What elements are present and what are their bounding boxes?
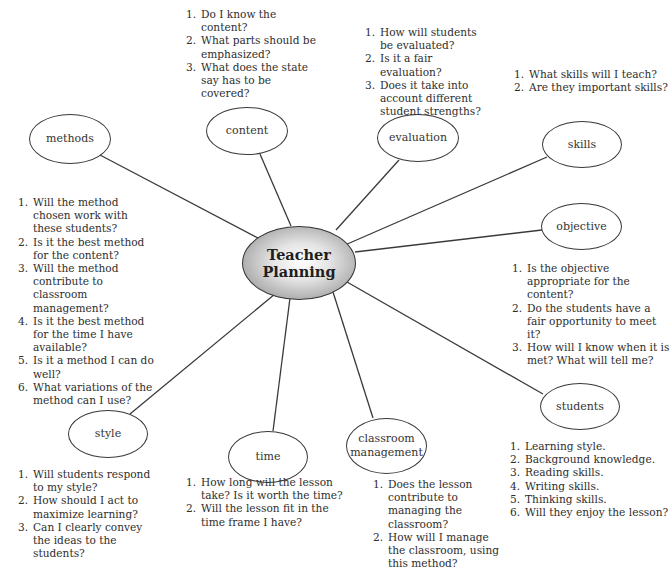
node-students-label: students [556, 400, 604, 414]
list-item: 3.Will the method contribute to classroo… [18, 262, 154, 315]
list-item: 4.Is it the best method for the time I h… [18, 315, 154, 355]
node-classroom-label-line2: management [350, 446, 423, 460]
list-item: 6.Will they enjoy the lesson? [510, 506, 672, 519]
connector-time [273, 298, 290, 431]
time-questions: 1.How long will the lesson take? Is it w… [186, 476, 351, 529]
node-content: content [206, 107, 288, 155]
list-item: 2.Is it a fair evaluation? [365, 52, 493, 78]
center-label-line2: Planning [262, 263, 335, 280]
center-label-line1: Teacher [262, 246, 335, 263]
skills-questions: 1.What skills will I teach? 2.Are they i… [514, 68, 670, 94]
node-style-label: style [95, 427, 121, 441]
list-item: 2.Are they important skills? [514, 81, 670, 94]
list-item: 1.How will students be evaluated? [365, 26, 493, 52]
list-item: 1.What skills will I teach? [514, 68, 670, 81]
node-evaluation-label: evaluation [389, 131, 447, 145]
list-item: 1.How long will the lesson take? Is it w… [186, 476, 351, 502]
node-classroom-management: classroom management [346, 418, 427, 474]
classroom-management-questions: 1.Does the lesson contribute to managing… [373, 478, 501, 570]
node-students: students [540, 383, 620, 430]
node-time-label: time [256, 450, 281, 464]
list-item: 2.Background knowledge. [510, 453, 672, 466]
connector-objective [355, 230, 542, 252]
list-item: 2.Is it the best method for the content? [18, 236, 154, 262]
list-item: 3.Reading skills. [510, 466, 672, 479]
node-evaluation: evaluation [377, 114, 459, 162]
list-item: 1.Will students respond to my style? [18, 468, 154, 494]
list-item: 3.Does it take into account different st… [365, 79, 493, 119]
node-objective-label: objective [556, 220, 606, 234]
list-item: 5.Thinking skills. [510, 493, 672, 506]
objective-questions: 1.Is the objective appropriate for the c… [512, 262, 672, 368]
list-item: 1.Is the objective appropriate for the c… [512, 262, 672, 302]
list-item: 4.Writing skills. [510, 480, 672, 493]
list-item: 2.Do the students have a fair opportunit… [512, 302, 672, 342]
list-item: 1.Learning style. [510, 440, 672, 453]
node-methods: methods [29, 114, 111, 164]
list-item: 2.How should I act to maximize learning? [18, 494, 154, 520]
connector-classroom-management [333, 292, 373, 418]
students-questions: 1.Learning style. 2.Background knowledge… [510, 440, 672, 519]
connector-content [260, 154, 291, 226]
list-item: 2.Will the lesson fit in the time frame … [186, 502, 351, 528]
list-item: 2.How will I manage the classroom, using… [373, 531, 501, 570]
node-style: style [68, 410, 148, 458]
list-item: 1.Do I know the content? [186, 8, 316, 34]
node-methods-label: methods [46, 132, 94, 146]
node-skills-label: skills [568, 138, 597, 152]
node-content-label: content [226, 124, 268, 138]
connector-evaluation [336, 160, 399, 230]
evaluation-questions: 1.How will students be evaluated? 2.Is i… [365, 26, 493, 118]
content-questions: 1.Do I know the content? 2.What parts sh… [186, 8, 316, 100]
list-item: 6.What variations of the method can I us… [18, 381, 154, 407]
list-item: 3.What does the state say has to be cove… [186, 61, 316, 101]
node-skills: skills [542, 121, 622, 168]
connector-skills [345, 157, 547, 245]
list-item: 2.What parts should be emphasized? [186, 34, 316, 60]
list-item: 1.Will the method chosen work with these… [18, 196, 154, 236]
center-node-teacher-planning: Teacher Planning [242, 226, 356, 300]
list-item: 5.Is it a method I can do well? [18, 354, 154, 380]
list-item: 3.Can I clearly convey the ideas to the … [18, 521, 154, 561]
list-item: 1.Does the lesson contribute to managing… [373, 478, 501, 531]
node-classroom-label-line1: classroom [350, 432, 423, 446]
style-questions: 1.Will students respond to my style? 2.H… [18, 468, 154, 560]
list-item: 3.How will I know when it is met? What w… [512, 341, 672, 367]
node-objective: objective [541, 203, 622, 250]
methods-questions: 1.Will the method chosen work with these… [18, 196, 154, 407]
